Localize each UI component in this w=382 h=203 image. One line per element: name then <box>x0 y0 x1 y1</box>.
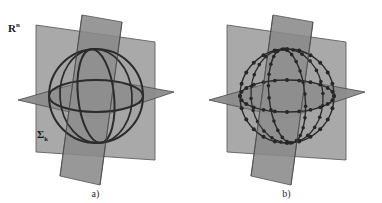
sample-point-marker <box>272 55 276 59</box>
sample-point-marker <box>244 86 248 90</box>
sample-point-marker <box>285 78 289 82</box>
sample-point-marker <box>326 86 330 90</box>
panel-a-graphic <box>0 0 191 203</box>
sample-point-marker <box>285 140 289 144</box>
sample-point-marker <box>298 139 302 143</box>
panel-b-graphic <box>191 0 382 203</box>
sample-point-marker <box>330 106 334 110</box>
sample-point-marker <box>279 140 283 144</box>
sample-point-marker <box>331 90 335 94</box>
sample-point-marker <box>308 59 312 63</box>
sample-point-marker <box>251 109 255 113</box>
sample-point-marker <box>252 105 256 109</box>
sample-point-marker <box>304 104 308 108</box>
sample-point-marker <box>262 135 266 139</box>
sample-point-marker <box>244 71 248 75</box>
figure-container: Rn Σk a) ⌐N b) <box>0 0 382 203</box>
sample-point-marker <box>291 48 295 52</box>
sample-point-marker <box>318 115 322 119</box>
sample-point-marker <box>282 47 286 51</box>
sample-point-marker <box>326 102 330 106</box>
sample-point-marker <box>297 79 301 83</box>
sample-point-marker <box>326 71 330 75</box>
label-sigma-subscript: k <box>44 135 48 142</box>
sample-point-marker <box>321 92 325 96</box>
sample-point-marker <box>269 62 273 66</box>
sample-point-marker <box>252 73 256 77</box>
sample-point-marker <box>273 139 277 143</box>
sample-point-marker <box>267 96 271 100</box>
sample-point-marker <box>252 61 256 65</box>
sample-point-marker <box>318 61 322 65</box>
sample-point-marker <box>249 97 253 101</box>
sample-point-marker <box>297 49 301 53</box>
label-r-n-superscript: n <box>16 21 20 28</box>
label-r-n-base: R <box>8 22 16 34</box>
sample-point-marker <box>303 116 307 120</box>
sample-point-marker <box>276 50 280 54</box>
sample-point-marker <box>321 104 325 108</box>
sample-point-marker <box>240 98 244 102</box>
sample-point-marker <box>273 79 277 83</box>
sample-point-marker <box>309 80 313 84</box>
sample-point-marker <box>262 108 266 112</box>
sample-point-marker <box>290 53 294 57</box>
sample-point-marker <box>301 126 305 130</box>
sample-point-marker <box>330 82 334 86</box>
sample-point-marker <box>270 136 274 140</box>
panel-a: Rn Σk a) <box>0 0 191 203</box>
caption-panel-b: b) <box>191 188 382 199</box>
sample-point-marker <box>240 90 244 94</box>
sample-point-marker <box>262 129 266 133</box>
panel-b: ⌐N b) <box>191 0 382 203</box>
sample-point-marker <box>288 141 292 145</box>
sample-point-marker <box>294 60 298 64</box>
sample-point-marker <box>273 50 277 54</box>
sample-point-marker <box>250 84 254 88</box>
label-sigma-k: Σk <box>37 129 48 143</box>
sample-point-marker <box>240 82 244 86</box>
sample-point-marker <box>306 134 310 138</box>
sample-point-marker <box>285 110 289 114</box>
sample-point-marker <box>273 110 277 114</box>
sample-point-marker <box>332 94 336 98</box>
sample-point-marker <box>281 136 285 140</box>
label-r-n: Rn <box>8 22 20 34</box>
sample-point-marker <box>267 72 271 76</box>
sample-point-marker <box>318 127 322 131</box>
sample-point-marker <box>272 119 276 123</box>
sample-point-marker <box>285 49 289 53</box>
sample-point-marker <box>319 80 323 84</box>
sample-point-marker <box>315 69 319 73</box>
sample-point-marker <box>298 134 302 138</box>
sample-point-marker <box>326 118 330 122</box>
sample-point-marker <box>269 108 273 112</box>
sample-point-marker <box>300 52 304 56</box>
sample-point-marker <box>257 63 261 67</box>
sample-point-marker <box>313 126 317 130</box>
sample-point-marker <box>318 83 322 87</box>
sample-point-marker <box>244 118 248 122</box>
sample-point-marker <box>331 98 335 102</box>
sample-point-marker <box>252 127 256 131</box>
sample-point-marker <box>298 69 302 73</box>
sample-point-marker <box>244 102 248 106</box>
sample-point-marker <box>276 129 280 133</box>
sample-point-marker <box>238 94 242 98</box>
sample-point-marker <box>309 108 313 112</box>
sample-point-marker <box>267 84 271 88</box>
caption-panel-a: a) <box>0 188 191 199</box>
sample-point-marker <box>240 106 244 110</box>
